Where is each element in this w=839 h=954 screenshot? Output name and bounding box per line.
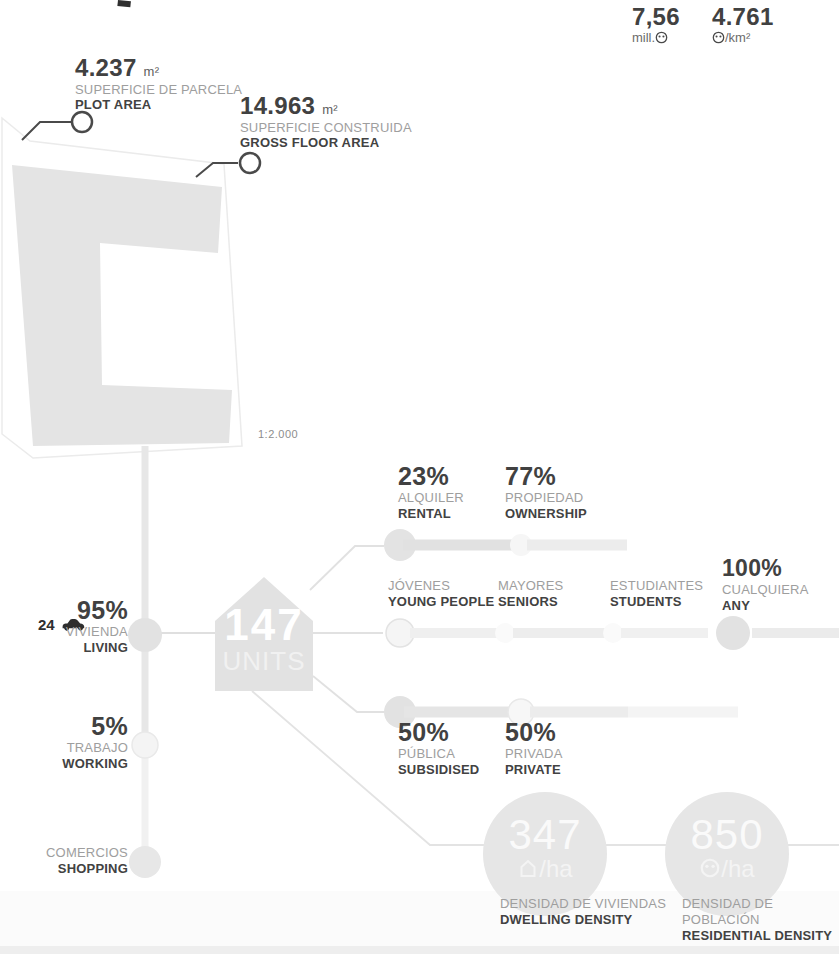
students-label-es: ESTUDIANTES bbox=[610, 578, 703, 594]
plot-area-unit: m² bbox=[144, 64, 160, 79]
living-node bbox=[128, 618, 162, 652]
working-label-es: TRABAJO bbox=[0, 740, 128, 756]
program-spine bbox=[142, 446, 149, 752]
dwelling-density-unit: /ha bbox=[539, 855, 572, 882]
city-density-unit: /km² bbox=[725, 30, 750, 45]
tenure-bar-rental bbox=[403, 540, 517, 551]
plot-area-label-es: SUPERFICIE DE PARCELA bbox=[75, 82, 242, 98]
young-label-en: YOUNG PEOPLE bbox=[388, 594, 494, 610]
residential-caption-es: DENSIDAD DE POBLACIÓN bbox=[682, 896, 839, 928]
funding-public: 50% PÚBLICA SUBSIDISED bbox=[398, 718, 479, 778]
shopping-label-en: SHOPPING bbox=[0, 861, 128, 877]
seniors-label-en: SENIORS bbox=[498, 594, 563, 610]
residential-caption-en: RESIDENTIAL DENSITY bbox=[682, 928, 839, 944]
gfa-callout-leader bbox=[196, 163, 238, 177]
program-living: 95% VIVIENDA LIVING bbox=[0, 596, 128, 656]
city-density-stat: 4.761 /km² bbox=[712, 4, 774, 47]
scan-artifact bbox=[117, 0, 131, 7]
gfa-label-es: SUPERFICIE CONSTRUIDA bbox=[240, 120, 412, 136]
any-value: 100% bbox=[722, 556, 809, 582]
residents-bar-young bbox=[410, 628, 498, 638]
rental-label-es: ALQUILER bbox=[398, 490, 464, 506]
population-unit: mill. bbox=[632, 30, 655, 45]
units-count: 147 bbox=[215, 603, 313, 647]
gfa-callout: 14.963 m² SUPERFICIE CONSTRUIDA GROSS FL… bbox=[240, 92, 412, 151]
population-value: 7,56 bbox=[632, 4, 680, 30]
any-label-en: ANY bbox=[722, 598, 809, 614]
private-label-en: PRIVATE bbox=[505, 762, 563, 778]
gfa-label-en: GROSS FLOOR AREA bbox=[240, 135, 412, 151]
connector-funding bbox=[313, 676, 384, 712]
plan-scale-label: 1:2.000 bbox=[258, 428, 298, 440]
tenure-bar-ownership bbox=[527, 540, 627, 551]
residential-density-caption: DENSIDAD DE POBLACIÓN RESIDENTIAL DENSIT… bbox=[682, 896, 839, 944]
ownership-value: 77% bbox=[505, 462, 587, 490]
residential-density-text: 850 /ha bbox=[657, 814, 797, 882]
tenure-rental: 23% ALQUILER RENTAL bbox=[398, 462, 464, 522]
living-value: 95% bbox=[0, 596, 128, 624]
tenure-ownership: 77% PROPIEDAD OWNERSHIP bbox=[505, 462, 587, 522]
residents-bar-divider-2 bbox=[603, 623, 623, 643]
person-icon bbox=[655, 31, 668, 44]
living-label-en: LIVING bbox=[0, 640, 128, 656]
program-working: 5% TRABAJO WORKING bbox=[0, 712, 128, 772]
units-badge-text: 147 UNITS bbox=[215, 603, 313, 676]
young-label-es: JÓVENES bbox=[388, 578, 494, 594]
living-label-es: VIVIENDA bbox=[0, 624, 128, 640]
students-label-en: STUDENTS bbox=[610, 594, 703, 610]
plot-area-callout: 4.237 m² SUPERFICIE DE PARCELA PLOT AREA bbox=[75, 54, 242, 113]
public-value: 50% bbox=[398, 718, 479, 746]
private-value: 50% bbox=[505, 718, 563, 746]
units-label: UNITS bbox=[215, 647, 313, 676]
infographic-canvas: 7,56 mill. 4.761 /km² 4.237 m² SUPERFICI… bbox=[0, 0, 839, 954]
population-stat: 7,56 mill. bbox=[632, 4, 680, 47]
rental-label-en: RENTAL bbox=[398, 506, 464, 522]
ownership-label-es: PROPIEDAD bbox=[505, 490, 587, 506]
shopping-label-es: COMERCIOS bbox=[0, 845, 128, 861]
working-node bbox=[132, 732, 158, 758]
building-footprint bbox=[12, 165, 232, 446]
private-label-es: PRIVADA bbox=[505, 746, 563, 762]
ownership-label-en: OWNERSHIP bbox=[505, 506, 587, 522]
residents-bar-students bbox=[621, 628, 708, 638]
dwelling-density-text: 347 /ha bbox=[475, 814, 615, 882]
gfa-value: 14.963 bbox=[240, 92, 315, 119]
any-label-es: CUALQUIERA bbox=[722, 582, 809, 598]
residential-density-value: 850 bbox=[657, 814, 797, 856]
residents-bar-any bbox=[752, 628, 839, 638]
public-label-es: PÚBLICA bbox=[398, 746, 479, 762]
plot-area-label-en: PLOT AREA bbox=[75, 97, 242, 113]
residents-bar-divider-1 bbox=[495, 623, 515, 643]
rental-value: 23% bbox=[398, 462, 464, 490]
working-value: 5% bbox=[0, 712, 128, 740]
dwelling-caption-en: DWELLING DENSITY bbox=[500, 912, 666, 928]
public-label-en: SUBSIDISED bbox=[398, 762, 479, 778]
gfa-callout-marker bbox=[240, 153, 260, 173]
residents-any: 100% CUALQUIERA ANY bbox=[722, 556, 809, 613]
dwelling-caption-es: DENSIDAD DE VIVIENDAS bbox=[500, 896, 666, 912]
funding-bar-public bbox=[404, 707, 514, 718]
dwelling-density-value: 347 bbox=[475, 814, 615, 856]
funding-bar-private bbox=[530, 707, 628, 718]
residents-node bbox=[386, 619, 414, 647]
gfa-unit: m² bbox=[322, 102, 338, 117]
plot-area-value: 4.237 bbox=[75, 54, 137, 81]
person-icon bbox=[699, 857, 721, 879]
plot-callout-marker bbox=[72, 112, 92, 132]
working-label-en: WORKING bbox=[0, 756, 128, 772]
program-shopping: COMERCIOS SHOPPING bbox=[0, 845, 128, 877]
plot-callout-leader bbox=[22, 122, 71, 140]
bottom-edge-band bbox=[0, 946, 839, 954]
residents-seniors: MAYORES SENIORS bbox=[498, 578, 563, 610]
shopping-node bbox=[129, 846, 161, 878]
residents-bar-seniors bbox=[513, 628, 605, 638]
house-icon bbox=[517, 857, 539, 879]
funding-bar-extension bbox=[628, 707, 738, 718]
funding-private: 50% PRIVADA PRIVATE bbox=[505, 718, 563, 778]
residential-density-unit: /ha bbox=[721, 855, 754, 882]
residents-young: JÓVENES YOUNG PEOPLE bbox=[388, 578, 494, 610]
residents-students: ESTUDIANTES STUDENTS bbox=[610, 578, 703, 610]
connector-tenure bbox=[310, 546, 384, 590]
dwelling-density-caption: DENSIDAD DE VIVIENDAS DWELLING DENSITY bbox=[500, 896, 666, 928]
person-icon bbox=[712, 31, 725, 44]
